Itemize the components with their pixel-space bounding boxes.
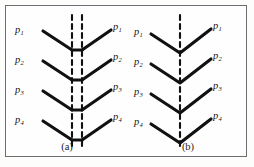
panel-a-right-label-p3: p3 (113, 82, 122, 93)
panel-a-left-label-p1: p1 (15, 25, 24, 36)
panel-a-right-label-p2: p2 (113, 52, 122, 63)
chevron-2 (43, 60, 111, 80)
panel-b-drawing (128, 6, 248, 158)
chevron-4 (151, 119, 211, 143)
panel-a-left-label-p2: p2 (15, 55, 24, 66)
panel-a-left-label-p4: p4 (15, 115, 24, 126)
panel-a-right-label-p4: p4 (113, 112, 122, 123)
panel-a-right-label-p1: p1 (113, 22, 122, 33)
panel-b-right-label-p4: p4 (213, 111, 222, 122)
panel-b-right-label-p3: p3 (213, 81, 222, 92)
chevron-3 (43, 90, 111, 110)
panel-a-drawing (6, 6, 128, 158)
panel-b-left-label-p1: p1 (134, 27, 143, 38)
panel-a-left-label-p3: p3 (15, 85, 24, 96)
chevron-4 (43, 120, 111, 140)
panel-b-right-label-p1: p1 (213, 21, 222, 32)
panel-b-caption: (b) (128, 141, 248, 152)
chevron-1 (43, 30, 111, 50)
panel-b-left-label-p4: p4 (134, 117, 143, 128)
panel-b-left-label-p3: p3 (134, 87, 143, 98)
panel-b: p1 p2 p3 p4 p1 p2 p3 p4 (b) (128, 6, 248, 158)
figure-root: p1 p2 p3 p4 p1 p2 p3 p4 (a) (0, 0, 254, 167)
panel-a: p1 p2 p3 p4 p1 p2 p3 p4 (a) (6, 6, 128, 158)
chevron-1 (151, 29, 211, 53)
panel-a-caption: (a) (6, 141, 128, 152)
panel-b-left-label-p2: p2 (134, 57, 143, 68)
panel-b-right-label-p2: p2 (213, 51, 222, 62)
figure-frame: p1 p2 p3 p4 p1 p2 p3 p4 (a) (5, 5, 247, 157)
